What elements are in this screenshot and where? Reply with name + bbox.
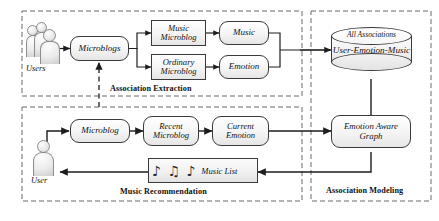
node-emotion-aware-graph[interactable]: Emotion Aware Graph: [331, 115, 411, 148]
section-label-association-modeling: Association Modeling: [326, 186, 403, 195]
node-ordinary-microblog-line2: Microblog: [159, 67, 199, 76]
section-label-music-recommendation: Music Recommendation: [120, 187, 207, 196]
edge-microblogs-to-ordinary-microblog: [129, 49, 151, 68]
user-label: User: [31, 176, 47, 185]
users-group-icon: [26, 22, 60, 62]
database-body-label: User-Emotion-Music: [331, 45, 412, 55]
node-recent-microblog[interactable]: Recent Microblog: [143, 116, 199, 146]
music-notes-icon: ♪ ♫ ♪: [149, 164, 196, 178]
node-emotion[interactable]: Emotion: [219, 55, 269, 79]
node-current-emotion[interactable]: Current Emotion: [212, 116, 269, 146]
node-emotion-label: Emotion: [227, 62, 262, 71]
database-bottom-ellipse: [331, 53, 412, 71]
node-ordinary-microblog[interactable]: Ordinary Microblog: [151, 54, 206, 80]
node-microblogs[interactable]: Microblogs: [70, 36, 129, 61]
node-emotion-aware-graph-line2: Graph: [358, 132, 385, 141]
node-current-emotion-line2: Emotion: [224, 131, 257, 140]
edge-microblogs-to-music-microblog: [129, 33, 151, 49]
music-list-label: Music List: [196, 166, 237, 176]
edge-emotion-aware-graph-to-music-list: [258, 152, 371, 172]
node-music-microblog[interactable]: Music Microblog: [151, 20, 206, 46]
node-microblogs-label: Microblogs: [76, 44, 122, 54]
node-recent-microblog-line2: Microblog: [151, 131, 191, 140]
database-top-label: All Associations: [331, 30, 412, 39]
node-music[interactable]: Music: [219, 21, 269, 45]
database-all-associations[interactable]: All Associations User-Emotion-Music: [331, 27, 412, 71]
node-music-microblog-line2: Microblog: [159, 33, 199, 42]
users-label: Users: [26, 64, 46, 73]
node-microblog-label: Microblog: [79, 126, 121, 135]
music-list-box[interactable]: ♪ ♫ ♪ Music List: [148, 158, 258, 183]
user-person-icon: [31, 140, 57, 174]
node-music-label: Music: [231, 28, 257, 37]
section-label-association-extraction: Association Extraction: [110, 84, 192, 93]
node-microblog[interactable]: Microblog: [70, 119, 130, 143]
figure-canvas: Users User Microblogs Music Microblog Or…: [0, 0, 439, 221]
